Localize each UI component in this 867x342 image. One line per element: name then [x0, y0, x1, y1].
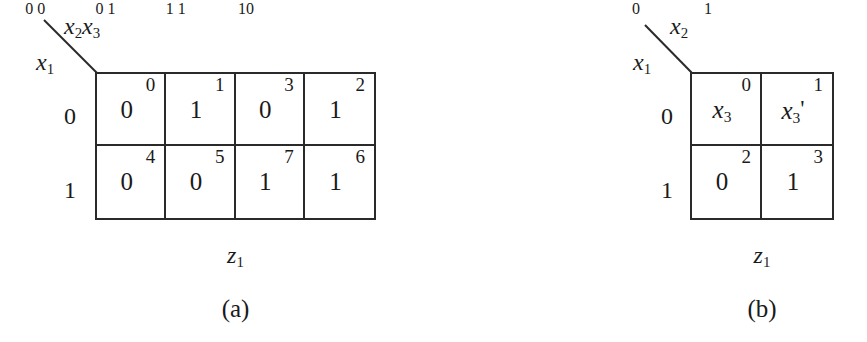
- column-header-a-2: 1 1: [141, 0, 211, 18]
- row-axis-label-b: x1: [633, 50, 651, 77]
- kmap-cell-b-3[interactable]: 3 1: [762, 146, 832, 218]
- kmap-cell-value-a-1: 1: [166, 97, 233, 122]
- kmap-cell-value-a-0: 0: [97, 97, 164, 122]
- row-axis-label-b-sub: 1: [644, 61, 651, 77]
- kmap-cell-index-a-4: 4: [146, 147, 156, 166]
- kmap-cell-a-3[interactable]: 3 0: [236, 74, 305, 146]
- kmap-cell-value-a-3: 0: [236, 97, 303, 122]
- kmap-cell-a-1[interactable]: 1 1: [166, 74, 235, 146]
- kmap-cell-index-a-6: 6: [356, 147, 366, 166]
- kmap-cell-index-a-7: 7: [284, 147, 294, 166]
- kmap-cell-index-a-2: 2: [356, 75, 366, 94]
- kmap-cell-a-5[interactable]: 5 0: [166, 146, 235, 218]
- kmap-cell-value-b-1: x3': [762, 97, 832, 126]
- column-header-a-3: 10: [211, 0, 281, 18]
- kmap-cell-index-a-1: 1: [215, 75, 225, 94]
- figure-caption-a: (a): [95, 296, 376, 321]
- row-header-b-1: 1: [652, 178, 682, 202]
- kmap-cell-index-a-3: 3: [284, 75, 294, 94]
- kmap-cell-index-a-0: 0: [146, 75, 156, 94]
- row-axis-label-a: x1: [36, 50, 54, 77]
- kmap-grid-a: 0 0 1 1 3 0 2 1 4 0 5 0 7 1 6 1: [95, 72, 376, 220]
- kmap-cell-index-b-2: 2: [742, 147, 752, 166]
- kmap-cell-a-6[interactable]: 6 1: [305, 146, 374, 218]
- kmap-cell-value-b-0: x3: [692, 97, 760, 125]
- kmap-cell-value-a-5: 0: [166, 169, 233, 194]
- karnaugh-map-figure-b: x2 x1 0 1 0 1 0 x3 1 x3' 2 0 3 1 z1 (b): [600, 0, 867, 342]
- kmap-cell-value-b-2: 0: [692, 169, 760, 194]
- kmap-cell-index-b-0: 0: [742, 75, 752, 94]
- kmap-cell-a-4[interactable]: 4 0: [97, 146, 166, 218]
- output-label-b-sub: 1: [763, 254, 770, 270]
- kmap-cell-value-a-7: 1: [236, 169, 303, 194]
- column-axis-label-b-sub: 2: [681, 25, 688, 41]
- kmap-cell-value-b-3: 1: [762, 169, 832, 194]
- column-axis-label-a-sub2: 3: [93, 25, 100, 41]
- kmap-cell-b-1[interactable]: 1 x3': [762, 74, 832, 146]
- kmap-cell-a-2[interactable]: 2 1: [305, 74, 374, 146]
- kmap-cell-index-a-5: 5: [215, 147, 225, 166]
- column-axis-label-b-base: x: [670, 13, 681, 39]
- kmap-cell-b-0[interactable]: 0 x3: [692, 74, 762, 146]
- column-axis-label-a-sub1: 2: [75, 25, 82, 41]
- row-header-b-0: 0: [652, 104, 682, 128]
- kmap-cell-index-b-1: 1: [814, 75, 824, 94]
- column-axis-label-a: x2x3: [64, 14, 100, 41]
- kmap-cell-value-a-4: 0: [97, 169, 164, 194]
- kmap-cell-value-a-6: 1: [305, 169, 374, 194]
- kmap-cell-value-a-2: 1: [305, 97, 374, 122]
- karnaugh-map-figure-a: x2x3 x1 0 0 0 1 1 1 10 0 1 0 0 1 1 3 0 2…: [0, 0, 470, 342]
- row-axis-label-a-base: x: [36, 49, 47, 75]
- kmap-cell-a-7[interactable]: 7 1: [236, 146, 305, 218]
- output-label-b-base: z: [754, 242, 763, 268]
- row-axis-label-b-base: x: [633, 49, 644, 75]
- kmap-grid-b: 0 x3 1 x3' 2 0 3 1: [690, 72, 834, 220]
- figure-caption-b: (b): [690, 296, 834, 321]
- kmap-cell-b-2[interactable]: 2 0: [692, 146, 762, 218]
- kmap-cell-a-0[interactable]: 0 0: [97, 74, 166, 146]
- output-label-a: z1: [95, 243, 376, 270]
- row-header-a-1: 1: [55, 178, 85, 202]
- output-label-b: z1: [690, 243, 834, 270]
- row-header-a-0: 0: [55, 104, 85, 128]
- row-axis-label-a-sub: 1: [47, 61, 54, 77]
- output-label-a-sub: 1: [236, 254, 243, 270]
- column-axis-label-b: x2: [670, 14, 688, 41]
- kmap-cell-index-b-3: 3: [814, 147, 824, 166]
